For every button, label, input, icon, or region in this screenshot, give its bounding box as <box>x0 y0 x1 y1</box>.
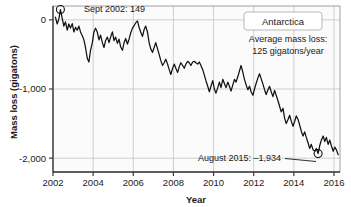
x-tick-label: 2004 <box>83 177 104 188</box>
y-tick-label: -1,000 <box>19 83 46 94</box>
x-tick-label: 2012 <box>243 177 264 188</box>
mass-loss-line-chart: 0-1,000-2,000 20022004200620082010201220… <box>0 0 351 207</box>
x-tick-label: 2010 <box>203 177 224 188</box>
x-tick-label: 2006 <box>123 177 144 188</box>
x-tick-label: 2016 <box>323 177 344 188</box>
average-loss-line-2: 125 gigatons/year <box>252 46 324 56</box>
average-loss-line-1: Average mass loss: <box>249 34 327 44</box>
x-axis-title: Year <box>186 194 206 205</box>
y-tick-label: 0 <box>41 14 46 25</box>
x-tick-label: 2002 <box>42 177 63 188</box>
sept-2002-annotation-label: Sept 2002: 149 <box>84 4 145 14</box>
y-axis-title: Mass loss (gigatons) <box>8 45 19 139</box>
region-label-text: Antarctica <box>262 16 305 27</box>
august-2015-annotation-label: August 2015: –1,934 <box>198 153 281 163</box>
x-tick-label: 2014 <box>283 177 304 188</box>
x-tick-label: 2008 <box>163 177 184 188</box>
chart-figure: 0-1,000-2,000 20022004200620082010201220… <box>0 0 351 207</box>
y-tick-label: -2,000 <box>19 153 46 164</box>
region-label-box: Antarctica <box>244 12 322 30</box>
